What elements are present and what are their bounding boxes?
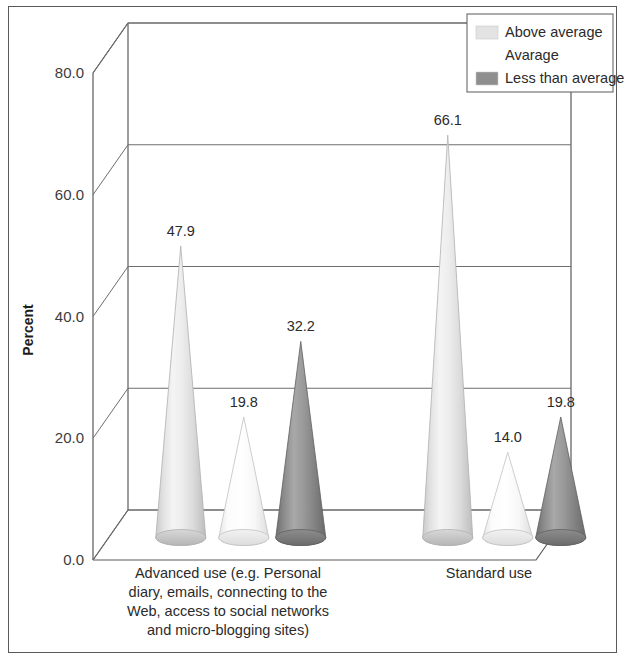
- legend-item-0[interactable]: Above average: [476, 24, 603, 40]
- value-label-0-1: 19.8: [230, 394, 258, 410]
- legend-swatch-0: [476, 26, 498, 39]
- y-axis-title: Percent: [20, 304, 36, 356]
- category-label-0-line-2: Web, access to social networks: [127, 603, 329, 619]
- value-label-1-2: 19.8: [547, 394, 575, 410]
- legend-swatch-2: [476, 72, 498, 85]
- category-label-0-line-1: diary, emails, connecting to the: [129, 584, 328, 600]
- y-tick-label-20: 20.0: [55, 429, 84, 446]
- y-tick-label-80: 80.0: [55, 64, 84, 81]
- value-label-0-2: 32.2: [287, 318, 315, 334]
- cone-base: [276, 530, 326, 546]
- category-labels-group: Advanced use (e.g. Personaldiary, emails…: [127, 565, 532, 638]
- value-label-1-1: 14.0: [494, 429, 522, 445]
- legend[interactable]: Above averageAvarageLess than average: [467, 14, 624, 92]
- y-axis-tick-labels: 0.020.040.060.080.0: [55, 64, 84, 568]
- chart-page: 0.020.040.060.080.0 Percent 47.919.832.2…: [0, 0, 627, 666]
- y-tick-label-0: 0.0: [63, 551, 84, 568]
- cone-base: [156, 530, 206, 546]
- value-label-0-0: 47.9: [167, 223, 195, 239]
- category-label-0-line-0: Advanced use (e.g. Personal: [135, 565, 321, 581]
- cone-base: [483, 530, 533, 546]
- y-tick-label-60: 60.0: [55, 186, 84, 203]
- legend-label-2: Less than average: [505, 70, 624, 86]
- legend-label-1: Avarage: [505, 47, 559, 63]
- legend-item-2[interactable]: Less than average: [476, 70, 624, 86]
- cone-base: [423, 530, 473, 546]
- legend-label-0: Above average: [505, 24, 603, 40]
- value-label-1-0: 66.1: [434, 112, 462, 128]
- legend-item-1[interactable]: Avarage: [505, 47, 559, 63]
- cone-base: [536, 530, 586, 546]
- category-label-1-line-0: Standard use: [446, 565, 532, 581]
- y-tick-label-40: 40.0: [55, 308, 84, 325]
- cone-base: [219, 530, 269, 546]
- category-label-0-line-3: and micro-blogging sites): [147, 622, 309, 638]
- cone-chart: 0.020.040.060.080.0 Percent 47.919.832.2…: [0, 0, 627, 666]
